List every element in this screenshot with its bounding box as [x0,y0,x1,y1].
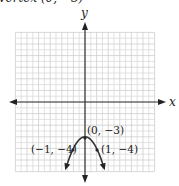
y-axis-up-arrow-icon [82,22,88,30]
right-point [95,148,98,151]
x-axis-label: x [169,95,176,109]
x-axis-right-arrow-icon [158,99,166,105]
vertex-point [83,136,86,139]
x-axis-left-arrow-icon [9,99,17,105]
vertex-label: (0, −3) [87,124,124,136]
right-point-label: (1, −4) [101,143,138,155]
y-axis-down-arrow-icon [82,175,88,183]
y-axis-label: y [80,6,88,20]
graph: y x (0, −3) (−1, −4) (1, −4) [0,0,179,186]
left-point-label: (−1, −4) [31,143,77,155]
